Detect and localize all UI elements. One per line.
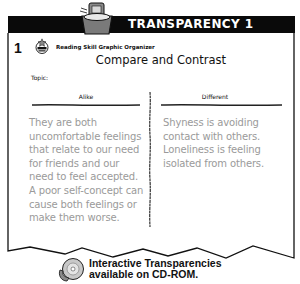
- topic-label: Topic:: [31, 74, 48, 81]
- cd-rom-notice: Interactive Transparencies available on …: [89, 258, 222, 280]
- computer-mascot-icon: [78, 2, 118, 36]
- cd-rom-line-2: available on CD-ROM.: [89, 269, 222, 280]
- transparency-page: TRANSPARENCY 1 1 Reading Skill Graphic O…: [0, 0, 300, 284]
- alike-text: They are both uncomfortable feelings tha…: [29, 116, 145, 225]
- alike-heading: Alike: [31, 93, 141, 100]
- cd-rom-icon: [57, 257, 85, 283]
- transparency-title: TRANSPARENCY 1: [128, 16, 253, 33]
- different-text: Shyness is avoiding contact with others.…: [163, 116, 279, 170]
- focus-skill-badge-icon: [34, 38, 50, 54]
- different-heading: Different: [160, 93, 270, 100]
- organizer-title: Compare and Contrast: [0, 53, 300, 67]
- skill-label: Reading Skill Graphic Organizer: [56, 44, 155, 50]
